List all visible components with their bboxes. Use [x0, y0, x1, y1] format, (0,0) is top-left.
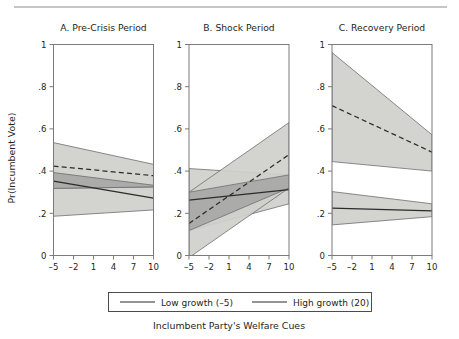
- panel-title-C: C. Recovery Period: [339, 22, 425, 33]
- y-tick-label: .8: [38, 82, 46, 92]
- panel-title-A: A. Pre-Crisis Period: [60, 22, 146, 33]
- y-tick-label: 0: [41, 251, 46, 261]
- legend-label-low-growth: Low growth (–5): [161, 298, 233, 308]
- y-tick-label: 1: [41, 40, 46, 50]
- panel-B: B. Shock Period0.2.4.6.81–5–214710: [174, 22, 295, 272]
- y-tick-label: .6: [174, 124, 182, 134]
- y-tick-label: .6: [38, 124, 46, 134]
- panel-C: C. Recovery Period0.2.4.6.81–5–214710: [317, 22, 438, 272]
- x-tick-label: 10: [427, 262, 438, 272]
- panel-A: A. Pre-Crisis Period0.2.4.6.81–5–214710: [38, 22, 159, 272]
- x-tick-label: –5: [327, 262, 337, 272]
- y-tick-label: 0: [177, 251, 182, 261]
- y-tick-label: .4: [174, 166, 182, 176]
- panel-group: A. Pre-Crisis Period0.2.4.6.81–5–214710B…: [38, 22, 437, 272]
- x-tick-label: 4: [389, 262, 394, 272]
- y-tick-label: .8: [174, 82, 182, 92]
- x-tick-label: 4: [111, 262, 116, 272]
- y-tick-label: .4: [317, 166, 325, 176]
- legend: Low growth (–5) High growth (20): [109, 293, 372, 312]
- y-tick-label: .8: [317, 82, 325, 92]
- y-tick-label: 1: [177, 40, 182, 50]
- chart-svg: A. Pre-Crisis Period0.2.4.6.81–5–214710B…: [0, 0, 459, 339]
- y-tick-label: 1: [320, 40, 325, 50]
- x-tick-label: 10: [284, 262, 295, 272]
- x-tick-label: –2: [204, 262, 214, 272]
- y-tick-label: .2: [317, 209, 325, 219]
- x-tick-label: 1: [369, 262, 374, 272]
- y-tick-label: .2: [174, 209, 182, 219]
- ci-band-C-high-growth: [332, 53, 432, 172]
- y-tick-label: .4: [38, 166, 46, 176]
- panel-title-B: B. Shock Period: [203, 22, 274, 33]
- y-tick-label: .2: [38, 209, 46, 219]
- y-axis-label: Pr(Incumbent Vote): [6, 113, 17, 204]
- x-axis-label: Inclumbent Party's Welfare Cues: [153, 320, 305, 331]
- x-tick-label: –2: [347, 262, 357, 272]
- x-tick-label: –5: [49, 262, 59, 272]
- x-tick-label: 4: [246, 262, 251, 272]
- x-tick-label: 10: [148, 262, 159, 272]
- x-tick-label: 7: [409, 262, 414, 272]
- figure-container: A. Pre-Crisis Period0.2.4.6.81–5–214710B…: [0, 0, 459, 339]
- y-tick-label: 0: [320, 251, 325, 261]
- x-tick-label: –5: [184, 262, 194, 272]
- legend-label-high-growth: High growth (20): [293, 298, 369, 308]
- x-tick-label: –2: [69, 262, 79, 272]
- x-tick-label: 7: [131, 262, 136, 272]
- x-tick-label: 1: [226, 262, 231, 272]
- x-tick-label: 1: [91, 262, 96, 272]
- y-tick-label: .6: [317, 124, 325, 134]
- x-tick-label: 7: [266, 262, 271, 272]
